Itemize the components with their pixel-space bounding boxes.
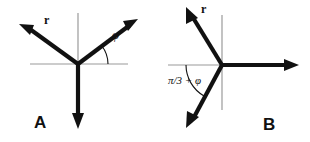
figure-root: r φ A r	[0, 0, 310, 142]
panel-a-vector-down	[72, 64, 84, 129]
panel-a-angle-label: φ	[112, 28, 119, 42]
panel-a-vector-upper-left-shaft	[27, 27, 78, 64]
panel-b-vector-label-r: r	[201, 2, 207, 16]
panel-b-vector-upper-left-shaft	[192, 16, 222, 65]
vector-diagram: r φ A r	[0, 0, 310, 142]
panel-b: r π/3 + φ B	[168, 2, 299, 134]
panel-b-vector-right	[222, 59, 299, 71]
panel-b-angle-label: π/3 + φ	[168, 74, 201, 86]
panel-a: r φ A	[19, 13, 138, 132]
panel-b-letter: B	[263, 115, 275, 134]
panel-a-vector-down-arrowhead	[72, 113, 84, 129]
panel-a-angle-arc	[102, 46, 109, 65]
panel-a-vector-upper-right-shaft	[78, 25, 130, 64]
panel-a-vector-upper-right	[78, 19, 138, 64]
panel-b-vector-right-arrowhead	[284, 59, 299, 71]
panel-a-letter: A	[34, 113, 46, 132]
panel-a-vector-upper-left	[19, 24, 78, 64]
panel-a-vector-upper-left-arrowhead	[19, 24, 34, 35]
panel-a-vector-label-r: r	[44, 13, 50, 27]
